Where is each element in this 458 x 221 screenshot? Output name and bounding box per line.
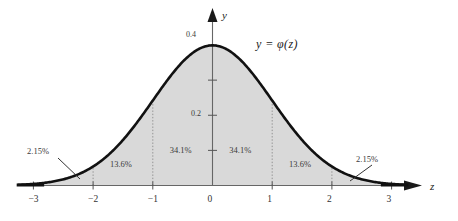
tail-label-left: 2.15% bbox=[27, 147, 49, 156]
x-tick-label-3: 3 bbox=[387, 195, 392, 205]
region-label-1: 34.1% bbox=[170, 146, 192, 155]
x-tick-label--1: −1 bbox=[148, 195, 158, 205]
region-label-3: 13.6% bbox=[289, 160, 311, 169]
curve-equation-label: y = φ(z) bbox=[256, 38, 298, 50]
x-tick-label--3: −3 bbox=[28, 195, 38, 205]
x-tick-label--2: −2 bbox=[88, 195, 98, 205]
region-label-0: 13.6% bbox=[110, 160, 132, 169]
y-axis-label: y bbox=[222, 10, 227, 21]
x-tick-label-2: 2 bbox=[327, 195, 332, 205]
distribution-plot bbox=[0, 0, 458, 221]
leader-line-left bbox=[58, 158, 80, 179]
y-tick-label-0-2: 0.2 bbox=[191, 110, 201, 118]
tail-label-right: 2.15% bbox=[356, 155, 378, 164]
y-axis-arrow-icon bbox=[208, 8, 218, 22]
x-tick-label-0: 0 bbox=[208, 195, 213, 205]
normal-distribution-figure: −3−2−10123 0.4 0.2 13.6%34.1%34.1%13.6% … bbox=[0, 0, 458, 221]
region-label-2: 34.1% bbox=[229, 146, 251, 155]
y-tick-label-0-4: 0.4 bbox=[186, 31, 196, 39]
x-axis-label: z bbox=[430, 181, 434, 192]
x-tick-label-1: 1 bbox=[267, 195, 272, 205]
